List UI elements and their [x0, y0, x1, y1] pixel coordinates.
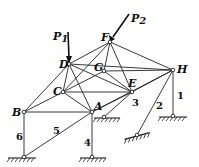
- joint-h: [171, 68, 175, 72]
- label-c: C: [53, 85, 62, 98]
- load-labels: P1 P2: [52, 12, 146, 44]
- label-bar-1: 1: [177, 90, 184, 101]
- label-h: H: [176, 63, 188, 76]
- label-a: A: [93, 100, 103, 113]
- label-b: B: [11, 106, 21, 119]
- support-labels: 1 2 3 4 5 6: [16, 90, 184, 148]
- label-f: F: [100, 31, 110, 44]
- space-truss-diagram: A B C D E F G H P1 P2 1 2 3 4 5 6: [0, 0, 199, 167]
- joint-b: [22, 110, 26, 114]
- label-bar-2: 2: [156, 100, 163, 111]
- support-bars: [24, 70, 173, 157]
- label-p2: P2: [130, 12, 146, 26]
- joint-e: [130, 90, 134, 94]
- label-g: G: [94, 61, 103, 74]
- load-arrows: [66, 14, 129, 64]
- label-p1: P1: [52, 30, 68, 44]
- ground-hatch-6: [7, 158, 36, 162]
- label-bar-4: 4: [84, 137, 91, 148]
- support-pins: [22, 114, 175, 159]
- force-arrow-p2: [113, 14, 129, 37]
- ground-supports: [7, 117, 187, 162]
- ground-hatch-3: [93, 118, 120, 122]
- support-bar-3: [104, 92, 132, 117]
- label-bar-3: 3: [132, 97, 139, 108]
- label-d: D: [58, 58, 69, 71]
- label-bar-6: 6: [16, 131, 23, 142]
- label-bar-5: 5: [53, 125, 60, 136]
- label-e: E: [127, 77, 137, 90]
